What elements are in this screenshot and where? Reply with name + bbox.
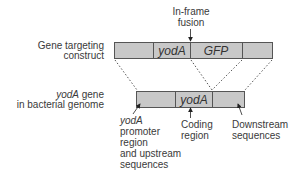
construct-segment-yoda: yodA: [157, 44, 185, 58]
coding-label-line1: Coding: [181, 119, 213, 130]
genome-label-line2: in bacterial genome: [17, 99, 105, 110]
construct-bar: yodA GFP: [115, 43, 273, 59]
promoter-label-line2: promoter: [120, 126, 161, 137]
promoter-label-line5: sequences: [120, 159, 168, 170]
construct-segment-gfp: GFP: [204, 44, 229, 58]
downstream-label-line2: sequences: [232, 130, 280, 141]
fusion-label-line2: fusion: [178, 17, 205, 28]
promoter-label-line1: yodA: [119, 115, 143, 126]
genome-segment-yoda: yodA: [179, 93, 207, 107]
gene-targeting-diagram: In-frame fusion Gene targeting construct…: [0, 0, 297, 179]
coding-label-line2: region: [181, 130, 209, 141]
promoter-label-line4: and upstream: [120, 148, 181, 159]
homology-dotted-lines: [115, 60, 272, 90]
downstream-label-line1: Downstream: [232, 119, 288, 130]
genome-bar: yodA: [137, 92, 245, 108]
construct-label-line2: construct: [63, 50, 104, 61]
promoter-label-line3: region: [120, 137, 148, 148]
fusion-label-line1: In-frame: [172, 6, 210, 17]
